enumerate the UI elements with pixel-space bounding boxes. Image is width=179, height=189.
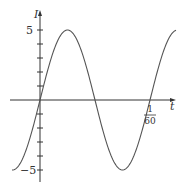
y-min-label: −5	[20, 164, 36, 177]
sine-chart: I t 5 −5 1 60	[0, 0, 179, 189]
y-axis-label: I	[33, 8, 39, 21]
x-axis-label: t	[170, 100, 175, 113]
y-axis-arrow-icon	[38, 10, 42, 16]
x-tick-denominator: 60	[144, 116, 156, 126]
x-tick-numerator: 1	[147, 104, 153, 114]
y-max-label: 5	[26, 24, 33, 37]
